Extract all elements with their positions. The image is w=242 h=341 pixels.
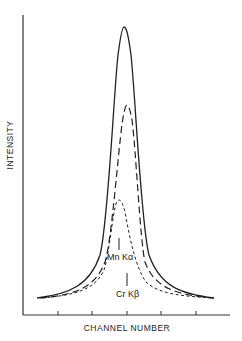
y-axis-label: INTENSITY xyxy=(5,121,15,170)
cr-kb-label: Cr Kβ xyxy=(116,289,139,299)
spectrum-chart: Mn Kα Cr Kβ CHANNEL NUMBER INTENSITY xyxy=(0,0,242,341)
x-axis-label: CHANNEL NUMBER xyxy=(84,323,171,333)
dashed-curve xyxy=(40,105,214,298)
mn-ka-label: Mn Kα xyxy=(107,252,133,262)
